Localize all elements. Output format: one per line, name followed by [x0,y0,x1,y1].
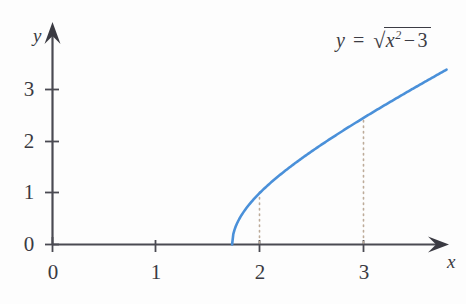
radical-group: √x2−3 [372,27,431,53]
radicand-minus: − [402,29,418,51]
radical-sign-icon: √ [373,28,386,53]
radicand-base: x [386,29,395,51]
radicand-constant: 3 [417,29,428,51]
y-tick-label-1: 1 [20,182,38,203]
x-tick-label-0: 0 [43,262,63,283]
x-axis-name: x [447,252,455,271]
equation-lhs: y [336,29,345,51]
equation-annotation: y = √x2−3 [336,27,431,53]
x-tick-label-3: 3 [354,262,374,283]
x-axis [52,237,449,253]
radicand: x2−3 [384,27,431,52]
y-tick-label-0: 0 [20,234,38,255]
radicand-exponent: 2 [395,28,402,42]
x-tick-label-1: 1 [146,262,166,283]
y-tick-label-3: 3 [20,79,38,100]
equation-equals: = [351,29,367,51]
y-tick-label-2: 2 [20,131,38,152]
y-axis-name: y [33,26,41,45]
x-tick-label-2: 2 [250,262,270,283]
y-axis [45,22,61,245]
graph-figure: y x 3 2 1 0 0 1 2 3 y = √x2−3 [0,0,466,304]
function-curve [232,70,446,245]
